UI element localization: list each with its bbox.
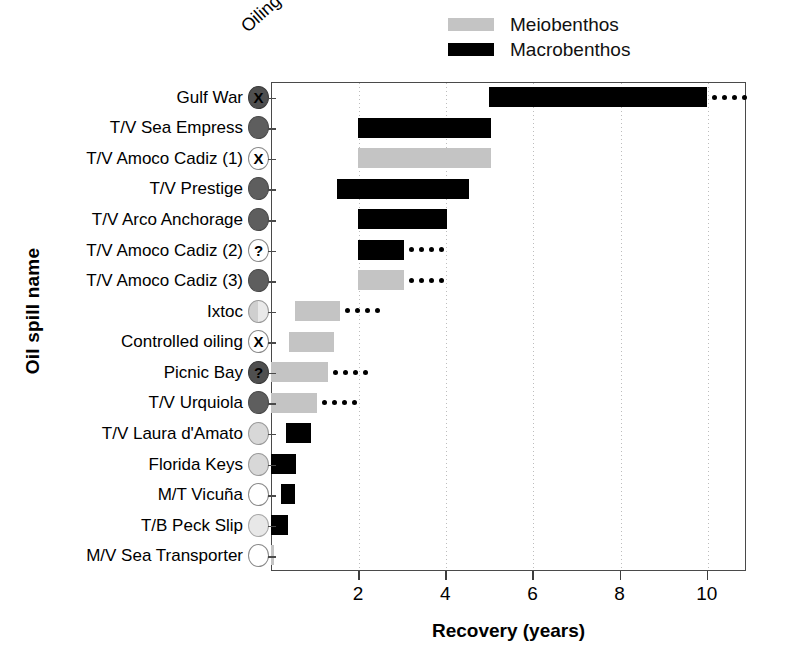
bar-row bbox=[271, 265, 746, 296]
bar-row bbox=[271, 418, 746, 449]
category-label: T/V Amoco Cadiz (2) bbox=[86, 242, 243, 259]
y-tick bbox=[268, 189, 276, 191]
y-tick bbox=[268, 128, 276, 130]
y-tick bbox=[268, 526, 276, 528]
y-tick bbox=[268, 98, 276, 100]
bar-row bbox=[271, 388, 746, 419]
oiling-marker-light bbox=[248, 453, 269, 476]
x-tick bbox=[707, 571, 709, 580]
dot bbox=[439, 247, 444, 252]
category-label: T/V Amoco Cadiz (3) bbox=[86, 272, 243, 289]
oiling-marker-uncertain: ? bbox=[248, 361, 269, 384]
dot bbox=[365, 308, 370, 313]
x-axis-title: Recovery (years) bbox=[271, 620, 746, 642]
x-tick bbox=[532, 571, 534, 580]
category-label: T/V Urquiola bbox=[149, 394, 243, 411]
y-tick bbox=[268, 434, 276, 436]
bar-row bbox=[271, 204, 746, 235]
category-label: Controlled oiling bbox=[121, 333, 243, 350]
bar-row bbox=[271, 540, 746, 571]
oiling-marker-heavy-unknown: X bbox=[248, 86, 269, 109]
y-tick bbox=[268, 251, 276, 253]
dot bbox=[352, 400, 357, 405]
category-label: Ixtoc bbox=[207, 303, 243, 320]
bar-row bbox=[271, 479, 746, 510]
category-row: T/B Peck Slip bbox=[0, 510, 271, 541]
category-row: T/V Prestige bbox=[0, 174, 271, 205]
oiling-marker-heavy bbox=[248, 116, 269, 139]
oiling-marker-glyph: X bbox=[253, 334, 263, 349]
legend-label-macrobenthos: Macrobenthos bbox=[510, 40, 630, 59]
dot bbox=[732, 95, 737, 100]
dot bbox=[409, 247, 414, 252]
dot bbox=[322, 400, 327, 405]
bar-macrobenthos bbox=[358, 209, 447, 229]
category-label: T/V Laura d'Amato bbox=[102, 425, 243, 442]
chart-root: Meiobenthos Macrobenthos Oiling Oil spil… bbox=[0, 0, 806, 661]
category-row: Picnic Bay? bbox=[0, 357, 271, 388]
legend-item-meiobenthos: Meiobenthos bbox=[448, 12, 708, 37]
dot bbox=[343, 370, 348, 375]
legend-swatch-macrobenthos bbox=[448, 43, 494, 56]
y-tick bbox=[268, 342, 276, 344]
category-row: T/V Amoco Cadiz (1)X bbox=[0, 143, 271, 174]
category-row: T/V Arco Anchorage bbox=[0, 204, 271, 235]
x-tick bbox=[445, 571, 447, 580]
category-row: Gulf WarX bbox=[0, 82, 271, 113]
oiling-marker-light bbox=[248, 514, 269, 537]
category-label: T/V Prestige bbox=[149, 180, 243, 197]
ongoing-dots bbox=[712, 94, 747, 100]
oiling-marker-glyph: X bbox=[253, 151, 263, 166]
legend-item-macrobenthos: Macrobenthos bbox=[448, 37, 708, 62]
bar-row bbox=[271, 143, 746, 174]
oiling-marker-heavy bbox=[248, 208, 269, 231]
category-label: Florida Keys bbox=[149, 456, 243, 473]
oiling-marker-glyph: X bbox=[253, 90, 263, 105]
dot bbox=[363, 370, 368, 375]
dot bbox=[429, 247, 434, 252]
chart-legend: Meiobenthos Macrobenthos bbox=[448, 12, 708, 62]
category-row: Controlled oilingX bbox=[0, 327, 271, 358]
dot bbox=[355, 308, 360, 313]
ongoing-dots bbox=[333, 369, 368, 375]
dot bbox=[409, 278, 414, 283]
category-label: Gulf War bbox=[177, 89, 243, 106]
x-tick bbox=[620, 571, 622, 580]
y-tick bbox=[268, 556, 276, 558]
category-label: M/T Vicuña bbox=[158, 486, 243, 503]
bar-macrobenthos bbox=[358, 240, 404, 260]
bar-rows bbox=[271, 82, 746, 571]
category-row: M/T Vicuña bbox=[0, 479, 271, 510]
bar-meiobenthos bbox=[358, 148, 491, 168]
bar-meiobenthos bbox=[358, 270, 404, 290]
x-tick-label: 2 bbox=[338, 583, 378, 605]
oiling-marker-heavy bbox=[248, 391, 269, 414]
dot bbox=[333, 370, 338, 375]
bar-meiobenthos bbox=[271, 393, 317, 413]
oiling-marker-none bbox=[248, 483, 269, 506]
legend-swatch-meiobenthos bbox=[448, 18, 494, 31]
category-row: T/V Urquiola bbox=[0, 388, 271, 419]
dot bbox=[419, 247, 424, 252]
bar-row bbox=[271, 296, 746, 327]
bar-macrobenthos bbox=[337, 179, 469, 199]
bar-macrobenthos bbox=[281, 484, 295, 504]
y-tick bbox=[268, 281, 276, 283]
oiling-marker-glyph: ? bbox=[254, 365, 263, 380]
x-tick-label: 10 bbox=[687, 583, 727, 605]
bar-meiobenthos bbox=[289, 332, 334, 352]
category-label: T/V Sea Empress bbox=[110, 119, 243, 136]
category-row: T/V Amoco Cadiz (2)? bbox=[0, 235, 271, 266]
category-label: T/V Amoco Cadiz (1) bbox=[86, 150, 243, 167]
oiling-marker-uncertain: ? bbox=[248, 239, 269, 262]
bar-row bbox=[271, 82, 746, 113]
oiling-marker-glyph: ? bbox=[254, 243, 263, 258]
y-tick bbox=[268, 159, 276, 161]
bar-row bbox=[271, 174, 746, 205]
ongoing-dots bbox=[409, 247, 444, 253]
y-tick bbox=[268, 495, 276, 497]
dot bbox=[342, 400, 347, 405]
dot bbox=[722, 95, 727, 100]
oiling-marker-heavy bbox=[248, 177, 269, 200]
bar-row bbox=[271, 357, 746, 388]
